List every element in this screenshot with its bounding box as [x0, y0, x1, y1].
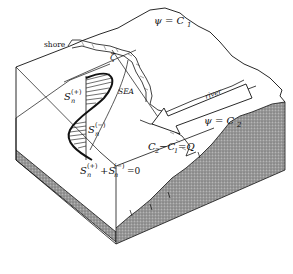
svg-text:(−): (−)	[114, 162, 125, 170]
svg-text:(+): (+)	[71, 88, 82, 96]
shore-label: shore	[44, 40, 66, 49]
sum-equation: S n (+) +S n (−) =0	[80, 162, 141, 179]
sea-label: SEA	[118, 87, 135, 96]
svg-text:S: S	[64, 91, 71, 102]
svg-text:1: 1	[187, 21, 191, 29]
stress-profile	[69, 74, 113, 160]
svg-text:ψ = C: ψ = C	[154, 15, 185, 26]
svg-text:n: n	[95, 130, 99, 138]
s-plus-label: S n (+)	[64, 88, 82, 105]
svg-text:n: n	[114, 171, 118, 179]
svg-text:2: 2	[236, 121, 242, 129]
s-minus-label: S n (−)	[88, 121, 106, 138]
svg-text:ψ = C: ψ = C	[204, 115, 235, 126]
svg-text:−C: −C	[159, 141, 175, 152]
svg-text:=Q: =Q	[178, 141, 195, 152]
psi-c2-label: ψ = C 2	[204, 115, 242, 129]
svg-text:(+): (+)	[87, 162, 98, 170]
svg-text:=0: =0	[127, 166, 141, 176]
svg-text:(−): (−)	[95, 121, 106, 129]
left-face-shade	[16, 150, 116, 242]
svg-text:S: S	[88, 124, 95, 135]
svg-text:S: S	[80, 165, 87, 176]
psi-c1-label: ψ = C 1	[154, 15, 191, 29]
svg-text:n: n	[87, 171, 91, 179]
right-face-shade	[116, 102, 285, 244]
block-diagram: shore SEA river ζ ψ = C 1 ψ = C 2 S n (+…	[0, 0, 293, 274]
svg-text:n: n	[71, 97, 75, 105]
